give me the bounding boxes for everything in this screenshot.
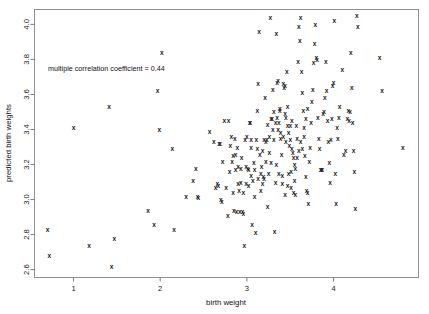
data-point: x xyxy=(267,170,271,177)
data-point: x xyxy=(310,98,314,105)
x-axis-title: birth weight xyxy=(206,298,247,307)
data-point: x xyxy=(350,84,354,91)
data-point: x xyxy=(315,56,319,63)
data-point: x xyxy=(266,203,270,210)
data-point: x xyxy=(300,68,304,75)
data-point: x xyxy=(348,108,352,115)
data-point: x xyxy=(275,30,279,37)
data-point: x xyxy=(242,242,246,249)
scatter-plot-figure: 1234 2.62.83.03.23.43.63.84.0 xxxxxxxxxx… xyxy=(0,0,429,314)
data-point: x xyxy=(294,165,298,172)
data-point: x xyxy=(288,122,292,129)
data-point: x xyxy=(333,17,337,24)
data-point: x xyxy=(285,68,289,75)
data-point: x xyxy=(286,182,290,189)
y-tick-label-5: 3.6 xyxy=(23,89,32,100)
data-point: x xyxy=(294,191,298,198)
data-point: x xyxy=(152,221,156,228)
correlation-annotation: multiple correlation coefficient = 0.44 xyxy=(48,64,165,73)
data-point: x xyxy=(334,200,338,207)
data-point: x xyxy=(256,175,260,182)
data-point: x xyxy=(268,149,272,156)
data-point: x xyxy=(337,114,341,121)
data-point: x xyxy=(314,21,318,28)
data-point: x xyxy=(170,145,174,152)
data-point: x xyxy=(172,226,176,233)
data-point: x xyxy=(328,179,332,186)
data-point: x xyxy=(228,168,232,175)
data-point: x xyxy=(160,49,164,56)
data-point: x xyxy=(273,228,277,235)
data-point: x xyxy=(157,126,161,133)
data-point: x xyxy=(317,135,321,142)
data-point: x xyxy=(378,54,382,61)
y-tick-label-0: 2.6 xyxy=(23,264,32,275)
data-point: x xyxy=(46,226,50,233)
data-point: x xyxy=(288,136,292,143)
data-point: x xyxy=(268,133,272,140)
data-point: x xyxy=(277,170,281,177)
data-point: x xyxy=(287,129,291,136)
data-point: x xyxy=(301,89,305,96)
data-point: x xyxy=(306,105,310,112)
data-point: x xyxy=(333,170,337,177)
data-point: x xyxy=(304,115,308,122)
x-tick-label-1: 2 xyxy=(158,284,162,293)
data-point: x xyxy=(47,252,51,259)
data-point: x xyxy=(255,136,259,143)
data-point: x xyxy=(233,135,237,142)
data-point: x xyxy=(307,200,311,207)
data-point: x xyxy=(335,124,339,131)
data-point: x xyxy=(340,66,344,73)
data-point: x xyxy=(264,158,268,165)
data-point: x xyxy=(268,14,272,21)
data-point: x xyxy=(266,121,270,128)
data-point: x xyxy=(234,166,238,173)
data-point: x xyxy=(302,124,306,131)
data-point: x xyxy=(212,138,216,145)
data-point: x xyxy=(254,229,258,236)
data-point: x xyxy=(274,179,278,186)
data-point: x xyxy=(255,107,259,114)
data-point: x xyxy=(330,115,334,122)
data-point: x xyxy=(353,168,357,175)
data-point: x xyxy=(323,94,327,101)
data-point: x xyxy=(272,136,276,143)
data-point: x xyxy=(216,182,220,189)
data-point: x xyxy=(297,23,301,30)
data-point: x xyxy=(327,159,331,166)
data-point: x xyxy=(307,158,311,165)
data-point: x xyxy=(250,221,254,228)
x-tick-label-3: 4 xyxy=(331,284,335,293)
data-point: x xyxy=(220,198,224,205)
data-point: x xyxy=(262,175,266,182)
data-point: x xyxy=(349,49,353,56)
data-point: x xyxy=(283,82,287,89)
data-point: x xyxy=(311,86,315,93)
y-tick-label-7: 4.0 xyxy=(23,19,32,30)
data-point: x xyxy=(332,79,336,86)
data-point: x xyxy=(242,210,246,217)
data-point: x xyxy=(353,205,357,212)
data-point: x xyxy=(329,136,333,143)
data-point: x xyxy=(295,154,299,161)
data-point: x xyxy=(231,152,235,159)
data-point: x xyxy=(309,119,313,126)
y-tick-label-1: 2.8 xyxy=(23,229,32,240)
data-point: x xyxy=(284,138,288,145)
data-point: x xyxy=(271,126,275,133)
data-point: x xyxy=(249,119,253,126)
data-point: x xyxy=(107,103,111,110)
data-point: x xyxy=(231,189,235,196)
data-point: x xyxy=(275,114,279,121)
data-point: x xyxy=(318,145,322,152)
data-point: x xyxy=(344,147,348,154)
data-point: x xyxy=(380,87,384,94)
data-point: x xyxy=(146,207,150,214)
y-tick-label-4: 3.4 xyxy=(23,124,32,135)
data-point: x xyxy=(301,145,305,152)
data-point: x xyxy=(296,58,300,65)
data-point: x xyxy=(278,105,282,112)
data-point: x xyxy=(221,158,225,165)
data-point: x xyxy=(259,187,263,194)
